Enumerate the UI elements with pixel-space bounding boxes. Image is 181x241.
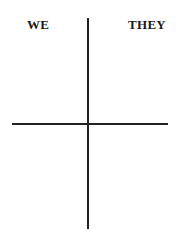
horizontal-divider-line — [12, 123, 168, 125]
left-column-label: WE — [27, 18, 49, 31]
right-column-label: THEY — [128, 18, 166, 31]
